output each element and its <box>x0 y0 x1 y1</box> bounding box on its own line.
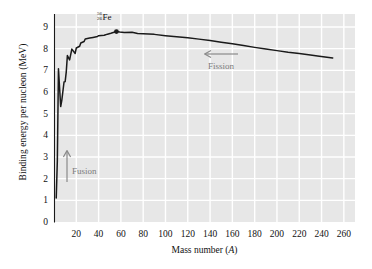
y-tick-label: 5 <box>26 109 48 119</box>
y-tick-label: 6 <box>26 87 48 97</box>
binding-energy-chart: Binding energy per nucleon (MeV) Mass nu… <box>0 0 372 269</box>
y-tick-label: 9 <box>26 22 48 32</box>
iron-56-symbol: Fe <box>103 13 112 21</box>
y-tick-label: 7 <box>26 65 48 75</box>
iron-56-atomic-number: 26 <box>97 16 102 21</box>
x-tick-label: 260 <box>331 229 357 239</box>
iron-56-marker <box>114 29 119 34</box>
fusion-annotation-label: Fusion <box>72 166 97 176</box>
y-tick-label: 1 <box>26 195 48 205</box>
iron-56-label: 5626Fe <box>97 12 112 21</box>
y-tick-label: 3 <box>26 152 48 162</box>
y-tick-label: 4 <box>26 130 48 140</box>
iron-56-nucleon-numbers: 5626 <box>97 12 102 21</box>
y-tick-label: 2 <box>26 174 48 184</box>
fission-annotation-label: Fission <box>208 61 234 71</box>
y-tick-label: 8 <box>26 44 48 54</box>
y-tick-label: 0 <box>26 217 48 227</box>
